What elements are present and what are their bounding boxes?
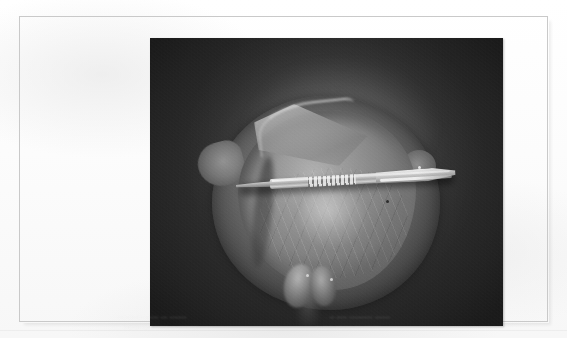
caption-ghost-upper-right: .. ..... ........... .......	[330, 312, 390, 320]
caption-line-right: .. ..... ........ ... ........	[316, 322, 381, 330]
caption-line-left: ..................... .. ..........	[124, 322, 199, 330]
specular-dot	[306, 274, 309, 277]
sheet-bottom-edge	[0, 330, 567, 331]
specimen-specular-highlight	[300, 188, 366, 246]
dark-dot	[386, 200, 389, 203]
caption-ghost-upper-left: ............ ...... ... ........	[118, 312, 187, 320]
specimen-photograph	[150, 38, 503, 326]
scanned-page: ............ ...... ... ........ .. ....…	[0, 0, 567, 338]
specular-dot	[330, 278, 333, 281]
